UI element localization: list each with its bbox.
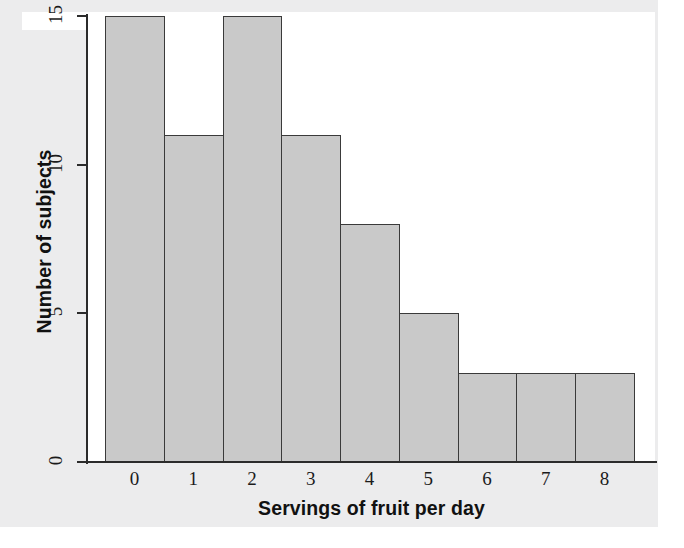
x-axis-tick-label: 4 (340, 469, 399, 488)
bar (340, 224, 400, 463)
x-axis-tick-label: 1 (164, 469, 223, 488)
y-axis-title: Number of subjects (33, 112, 56, 372)
bar (458, 373, 518, 463)
x-axis-tick-label: 7 (516, 469, 575, 488)
y-axis-tick-mark (77, 164, 86, 166)
bar (223, 16, 283, 463)
x-axis-title: Servings of fruit per day (86, 497, 657, 520)
bar (516, 373, 576, 463)
bar (105, 16, 165, 463)
y-axis-line (86, 14, 88, 464)
y-axis-tick-mark (77, 461, 86, 463)
figure-page: 051015 012345678 Number of subjects Serv… (0, 0, 684, 548)
bar (575, 373, 635, 463)
y-axis-tick-mark (77, 312, 86, 314)
bar (399, 313, 459, 463)
y-axis-tick-label: 0 (46, 444, 65, 478)
x-axis-tick-label: 0 (105, 469, 164, 488)
x-axis-line (86, 461, 657, 463)
x-axis-tick-label: 2 (223, 469, 282, 488)
x-axis-tick-label: 3 (281, 469, 340, 488)
x-axis-tick-label: 8 (575, 469, 634, 488)
y-axis-tick-mark (77, 15, 86, 17)
bar (164, 135, 224, 463)
y-axis-tick-label: 15 (46, 0, 65, 32)
x-axis-tick-label: 6 (458, 469, 517, 488)
x-axis-tick-label: 5 (399, 469, 458, 488)
bar (281, 135, 341, 463)
